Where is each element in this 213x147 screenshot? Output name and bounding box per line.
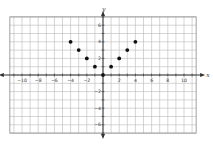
y-tick-label: −6 [94, 122, 101, 127]
data-point [134, 40, 138, 44]
x-tick-label: 4 [134, 78, 137, 83]
data-point [125, 48, 129, 52]
y-axis-arrow-down-icon [101, 134, 105, 139]
data-point [117, 57, 121, 61]
data-point [109, 65, 113, 69]
x-axis-arrow-left-icon [0, 73, 4, 77]
y-tick-label: 2 [98, 56, 101, 61]
x-axis-label: x [206, 71, 210, 78]
x-tick-label: 6 [150, 78, 153, 83]
y-tick-label: −4 [94, 106, 101, 111]
y-tick-label: −2 [94, 89, 101, 94]
data-point [93, 65, 97, 69]
data-point [85, 57, 89, 61]
x-tick-label: −10 [17, 78, 27, 83]
x-tick-label: −8 [35, 78, 42, 83]
x-tick-label: −4 [67, 78, 74, 83]
x-tick-label: −6 [51, 78, 58, 83]
data-point [77, 48, 81, 52]
data-point [69, 40, 73, 44]
y-tick-label: 4 [98, 39, 101, 44]
data-point [101, 73, 105, 77]
y-tick-label: 6 [98, 23, 101, 28]
x-tick-label: 2 [118, 78, 121, 83]
x-tick-label: 10 [181, 78, 187, 83]
y-axis-label: y [101, 5, 106, 13]
x-axis-arrow-right-icon [200, 73, 205, 77]
x-tick-label: 8 [166, 78, 169, 83]
coordinate-plane: xy −10−8−6−4−2246810−6−4−2246 [0, 0, 213, 147]
x-tick-label: −2 [83, 78, 90, 83]
